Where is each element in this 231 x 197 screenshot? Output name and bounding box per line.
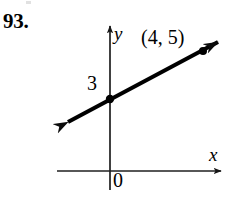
y-axis-label: y — [114, 24, 122, 43]
figure-container: 93. y x 0 3 (4, 5) — [0, 0, 231, 197]
point-marker-4-5 — [199, 47, 207, 55]
scan-artifact-speck — [26, 1, 31, 4]
point-marker-y-intercept — [106, 95, 114, 103]
origin-label: 0 — [113, 170, 123, 190]
point-coordinate-label: (4, 5) — [141, 27, 184, 47]
y-intercept-value-label: 3 — [87, 73, 97, 93]
problem-number-label: 93. — [3, 11, 29, 32]
x-axis-label: x — [209, 145, 217, 164]
